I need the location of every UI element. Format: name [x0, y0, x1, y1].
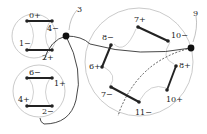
vertex-label: 4−	[47, 24, 59, 33]
callout-label-9: 9	[193, 9, 198, 18]
vertex-dot	[165, 88, 169, 92]
vertex-label: 8+	[179, 61, 191, 70]
circle-right: 7+ 10− 8− 6+ 8+ 10+ 7− 11−	[85, 8, 193, 117]
vertex-label: 6+	[89, 62, 101, 71]
inner-arc	[140, 87, 166, 101]
vertex-label: 11−	[135, 108, 152, 117]
vertex-label: 8−	[102, 33, 114, 42]
callout-label-3: 3	[77, 5, 82, 14]
vertex-label: 7+	[134, 15, 146, 24]
vertex-label: 10+	[166, 95, 183, 104]
vertex-label: 0+	[29, 11, 41, 20]
vertex-dot	[137, 100, 141, 104]
vertex-dot	[50, 19, 54, 23]
vertex-label: 4+	[18, 95, 30, 104]
vertex-dot	[25, 104, 29, 108]
vertex-dot	[109, 85, 113, 89]
vertex-label: 1−	[19, 39, 31, 48]
vertex-dot	[136, 25, 140, 29]
pointer-3	[69, 10, 77, 30]
circle-bottom-left: 6− 1+ 4+ 2−	[13, 65, 66, 117]
pointer-9	[193, 16, 197, 42]
circle-top-left: 0+ 4− 1− 2+	[12, 11, 59, 62]
vertex-dot	[109, 43, 113, 47]
vertex-dot	[25, 48, 29, 52]
diagram-canvas: 0+ 4− 1− 2+ 6− 1+ 4+ 2−	[0, 0, 207, 134]
edge-8p-10p	[167, 66, 176, 90]
vertex-label: 6−	[29, 68, 41, 77]
vertex-label: 7−	[101, 90, 113, 99]
vertex-label: 10−	[171, 31, 188, 40]
inner-arc-right	[46, 78, 51, 106]
vertex-dot	[166, 39, 170, 43]
inner-arc	[114, 29, 136, 47]
inner-arc	[166, 42, 174, 64]
inner-arc	[104, 67, 113, 86]
vertex-label: 2−	[42, 107, 54, 116]
vertex-label: 2+	[42, 53, 54, 62]
node-9	[188, 45, 195, 52]
edge-7p-10m	[138, 27, 168, 41]
vertex-dot	[50, 48, 54, 52]
vertex-dot	[174, 64, 178, 68]
dashed-curve	[118, 48, 191, 116]
node-3	[63, 33, 70, 40]
vertex-label: 1+	[54, 79, 66, 88]
